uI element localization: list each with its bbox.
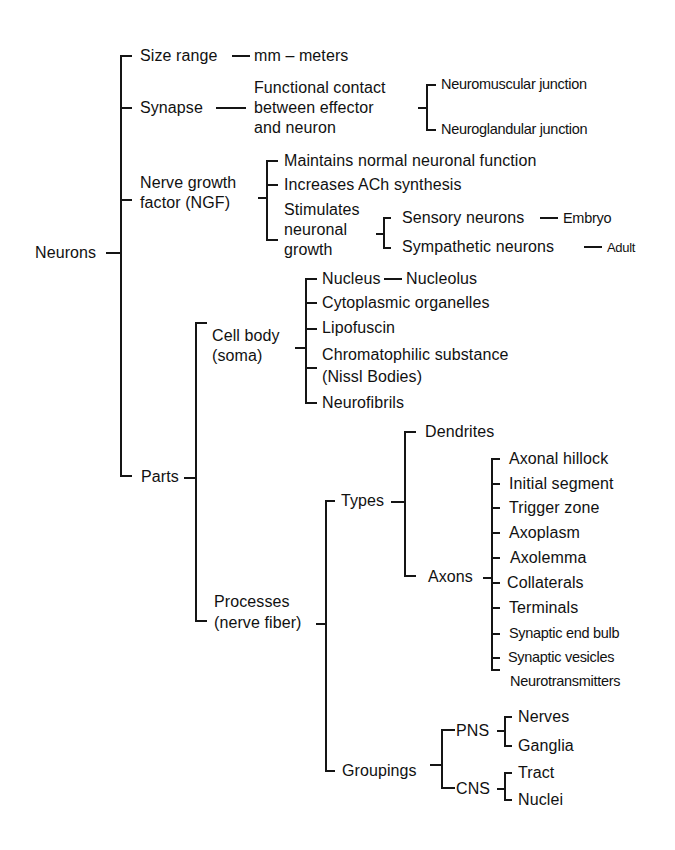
connector <box>491 507 500 509</box>
node-stimulates-line-2: neuronal <box>284 220 347 239</box>
node-cns: CNS <box>456 779 490 798</box>
node-sensory-neurons: Sensory neurons <box>402 208 524 227</box>
connector <box>325 770 335 772</box>
connector <box>266 184 278 186</box>
root-node-neurons: Neurons <box>35 243 96 262</box>
connector <box>305 402 317 404</box>
connector <box>216 107 246 109</box>
connector <box>584 246 602 248</box>
connector <box>305 278 307 404</box>
node-ganglia: Ganglia <box>518 736 574 755</box>
connector <box>491 458 500 460</box>
connector <box>232 55 250 57</box>
connector <box>540 217 558 219</box>
node-axons: Axons <box>428 567 473 586</box>
node-increases-ach: Increases ACh synthesis <box>284 175 462 194</box>
node-stimulates-line-3: growth <box>284 240 333 259</box>
connector <box>491 483 500 485</box>
node-terminals: Terminals <box>509 598 578 617</box>
node-neuromuscular-junction: Neuromuscular junction <box>441 75 587 94</box>
node-cytoplasmic-organelles: Cytoplasmic organelles <box>322 293 490 312</box>
node-nissl-bodies: (Nissl Bodies) <box>322 367 422 386</box>
connector <box>325 500 327 772</box>
connector <box>106 252 121 254</box>
connector <box>491 532 500 534</box>
connector <box>266 239 278 241</box>
connector <box>120 199 132 201</box>
connector <box>504 716 512 718</box>
node-size-range: Size range <box>140 46 218 65</box>
node-nerves: Nerves <box>518 707 569 726</box>
connector <box>195 322 207 324</box>
connector <box>305 328 317 330</box>
node-ngf-line-2: factor (NGF) <box>140 193 230 212</box>
connector <box>441 787 455 789</box>
node-lipofuscin: Lipofuscin <box>322 318 395 337</box>
synapse-definition-line-2: between effector <box>254 98 374 117</box>
connector <box>504 745 512 747</box>
node-cell-body-line-2: (soma) <box>212 346 262 365</box>
node-tract: Tract <box>518 763 554 782</box>
connector <box>120 475 132 477</box>
connector <box>404 431 406 577</box>
connector <box>383 217 391 219</box>
connector <box>383 217 385 248</box>
node-nucleolus: Nucleolus <box>406 269 477 288</box>
node-sympathetic-neurons: Sympathetic neurons <box>402 237 554 256</box>
node-maintains-function: Maintains normal neuronal function <box>284 151 536 170</box>
node-synapse: Synapse <box>140 98 203 117</box>
synapse-definition-line-3: and neuron <box>254 118 336 137</box>
connector <box>120 107 132 109</box>
connector <box>426 84 428 130</box>
node-axonal-hillock: Axonal hillock <box>509 449 608 468</box>
node-embryo: Embryo <box>563 209 611 228</box>
connector <box>441 729 443 789</box>
connector <box>195 620 207 622</box>
node-adult: Adult <box>607 238 635 257</box>
connector <box>491 607 500 609</box>
node-parts: Parts <box>141 467 179 486</box>
node-neuroglandular-junction: Neuroglandular junction <box>441 120 587 139</box>
connector <box>120 55 122 477</box>
connector <box>266 160 268 240</box>
connector <box>404 431 416 433</box>
node-cell-body-line-1: Cell body <box>212 326 280 345</box>
connector <box>504 716 506 746</box>
node-processes-line-2: (nerve fiber) <box>214 613 302 632</box>
connector <box>491 633 500 635</box>
connector <box>491 458 493 671</box>
connector <box>383 247 391 249</box>
node-chromatophilic-substance: Chromatophilic substance <box>322 345 509 364</box>
node-synaptic-end-bulb: Synaptic end bulb <box>509 624 619 643</box>
connector <box>426 84 436 86</box>
node-groupings: Groupings <box>342 761 417 780</box>
connector <box>195 322 197 622</box>
connector <box>491 669 500 671</box>
node-nuclei: Nuclei <box>518 790 563 809</box>
node-synaptic-vesicles: Synaptic vesicles <box>508 648 614 667</box>
node-collaterals: Collaterals <box>507 573 584 592</box>
synapse-definition-line-1: Functional contact <box>254 78 386 97</box>
node-types: Types <box>341 491 384 510</box>
connector <box>491 557 500 559</box>
connector <box>305 302 317 304</box>
connector <box>404 575 416 577</box>
node-neurofibrils: Neurofibrils <box>322 393 404 412</box>
connector <box>491 657 500 659</box>
connector <box>384 278 402 280</box>
node-pns: PNS <box>456 721 489 740</box>
connector <box>305 367 317 369</box>
connector <box>491 582 500 584</box>
node-dendrites: Dendrites <box>425 422 494 441</box>
connector <box>120 55 132 57</box>
node-ngf-line-1: Nerve growth <box>140 173 236 192</box>
connector <box>441 729 455 731</box>
node-processes-line-1: Processes <box>214 592 290 611</box>
connector <box>391 501 405 503</box>
node-initial-segment: Initial segment <box>509 474 614 493</box>
node-size-range-value: mm – meters <box>254 46 348 65</box>
node-neurotransmitters: Neurotransmitters <box>510 672 620 691</box>
node-trigger-zone: Trigger zone <box>509 498 599 517</box>
node-axoplasm: Axoplasm <box>509 523 580 542</box>
connector <box>266 160 278 162</box>
